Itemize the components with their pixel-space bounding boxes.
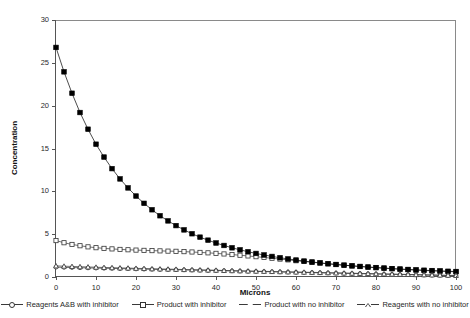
series-marker [390,266,395,271]
series-marker [310,260,315,265]
x-axis-tick-label: 70 [332,284,340,292]
series-marker [214,251,218,255]
series-marker [158,213,163,218]
data-series [54,45,459,274]
y-axis-tick-label: 25 [41,59,49,67]
series-marker [94,142,99,147]
series-marker [238,253,242,257]
series-marker [62,241,66,245]
series-marker [94,246,98,250]
x-axis-tick [456,276,457,280]
legend-item[interactable]: Reagents with no inhibitor [357,300,468,309]
y-axis-tick-label: 0 [45,273,49,281]
series-marker [214,241,219,246]
series-marker [270,254,275,259]
x-axis-tick [176,276,177,280]
series-marker [118,247,122,251]
series-marker [254,251,259,256]
x-axis-tick [256,276,257,280]
x-axis-tick-label: 0 [54,284,58,292]
series-marker [398,267,403,272]
series-marker [78,110,83,115]
series-marker [230,252,234,256]
x-axis-tick-label: 20 [132,284,140,292]
x-axis-tick-label: 30 [172,284,180,292]
x-axis-tick-label: 100 [450,284,463,292]
series-marker [158,249,162,253]
y-axis-tick [52,234,56,235]
series-marker [174,249,178,253]
legend-item[interactable]: Product with inhibitor [132,300,227,309]
series-marker [126,186,131,191]
series-marker [246,254,250,258]
series-marker [406,267,411,272]
series-marker [54,45,59,50]
series-marker [350,264,355,269]
series-marker [102,246,106,250]
series-marker [326,261,331,266]
legend-item[interactable]: Reagents A&B with inhibitor [1,300,119,309]
series-marker [134,248,138,252]
series-marker [54,238,58,242]
y-axis-tick [52,106,56,107]
x-axis-tick-label: 90 [412,284,420,292]
series-marker [166,249,170,253]
series-marker [230,245,235,250]
series-marker [142,248,146,252]
series-marker [86,245,90,249]
series-marker [182,228,187,233]
legend-item[interactable]: Product with no inhibitor [239,300,344,309]
legend-label: Product with no inhibitor [264,301,344,309]
series-layer [56,20,456,277]
series-marker [286,257,291,262]
series-marker [134,194,139,199]
series-marker [110,247,114,251]
legend-label: Reagents with no inhibitor [382,301,468,309]
legend-marker-icon [132,300,154,309]
x-axis-tick [216,276,217,280]
y-axis-tick [52,20,56,21]
x-axis-tick [336,276,337,280]
y-axis-tick-label: 20 [41,102,49,110]
y-axis-tick-label: 30 [41,16,49,24]
x-axis-tick-label: 10 [92,284,100,292]
series-marker [182,250,186,254]
series-marker [78,244,82,248]
x-axis-tick [56,276,57,280]
series-marker [110,166,115,171]
series-line [56,47,456,271]
series-marker [198,250,202,254]
series-marker [294,258,299,263]
series-marker [86,127,91,132]
x-axis-tick [376,276,377,280]
series-marker [302,259,307,264]
series-marker [198,235,203,240]
series-marker [318,261,323,266]
x-axis-tick [136,276,137,280]
series-marker [222,252,226,256]
legend-marker-icon [239,300,261,309]
y-axis-tick [52,63,56,64]
series-marker [366,265,371,270]
x-axis-tick-label: 40 [212,284,220,292]
series-marker [190,250,194,254]
y-axis-tick [52,149,56,150]
series-marker [238,248,243,253]
legend-label: Product with inhibitor [157,301,227,309]
series-marker [342,263,347,268]
series-marker [374,265,379,270]
x-axis-tick-label: 80 [372,284,380,292]
series-marker [382,266,387,271]
series-marker [358,264,363,269]
chart-legend: Reagents A&B with inhibitorProduct with … [0,300,470,309]
x-axis-tick [96,276,97,280]
x-axis-tick-label: 60 [292,284,300,292]
series-marker [262,253,267,258]
y-axis-tick-label: 15 [41,145,49,153]
series-marker [246,249,251,254]
plot-area: 0510152025300102030405060708090100 [55,20,455,277]
series-marker [206,251,210,255]
series-marker [190,231,195,236]
series-marker [278,255,283,260]
series-marker [334,262,339,267]
